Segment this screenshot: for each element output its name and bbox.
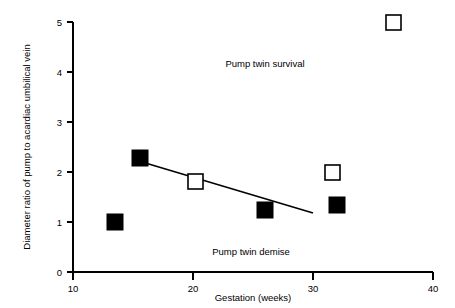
- y-axis-title: Diameter ratio of pump to acardiac umbil…: [21, 44, 32, 249]
- scatter-plot: 0 1 2 3 4 5 10 20 30 40 Gestation (weeks…: [0, 0, 455, 308]
- chart-figure: 0 1 2 3 4 5 10 20 30 40 Gestation (weeks…: [0, 0, 455, 308]
- y-tick-label-5: 5: [57, 17, 62, 28]
- x-tick-label-10: 10: [68, 283, 79, 294]
- x-tick-label-30: 30: [308, 283, 319, 294]
- series-pump-twin-demise: [107, 150, 345, 230]
- data-point-filled-square: [107, 214, 123, 230]
- x-tick-label-20: 20: [188, 283, 199, 294]
- data-point-filled-square: [329, 197, 345, 213]
- data-point-filled-square: [257, 202, 273, 218]
- annotation-pump-twin-survival: Pump twin survival: [225, 58, 304, 69]
- y-tick-label-1: 1: [57, 217, 62, 228]
- data-point-open-square: [386, 15, 401, 30]
- regression-trendline: [142, 162, 313, 213]
- y-tick-label-4: 4: [57, 67, 62, 78]
- y-tick-label-2: 2: [57, 167, 62, 178]
- series-pump-twin-survival: [188, 15, 401, 189]
- x-tick-label-40: 40: [428, 283, 439, 294]
- annotation-pump-twin-demise: Pump twin demise: [212, 246, 290, 257]
- data-point-open-square: [325, 165, 340, 180]
- data-point-filled-square: [132, 150, 148, 166]
- x-axis-title: Gestation (weeks): [215, 292, 292, 303]
- data-point-open-square: [188, 174, 203, 189]
- y-tick-label-3: 3: [57, 117, 62, 128]
- y-axis-ticks: 0 1 2 3 4 5: [57, 17, 73, 278]
- x-axis-ticks: 10 20 30 40: [68, 272, 439, 294]
- y-tick-label-0: 0: [57, 267, 62, 278]
